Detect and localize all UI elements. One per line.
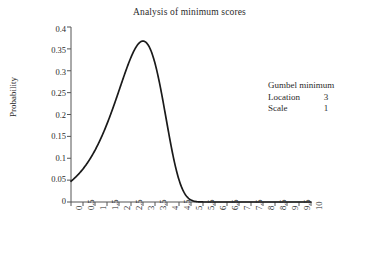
x-tick-label: 0	[74, 206, 84, 210]
x-tick-label: 2.5	[134, 199, 144, 210]
x-tick-label: 1.5	[110, 199, 120, 210]
x-tick-label: 4.5	[182, 199, 192, 210]
legend-title: Gumbel minimum	[268, 80, 344, 92]
legend-key-location: Location	[268, 92, 316, 104]
x-tick-label: 8.5	[278, 199, 288, 210]
x-tick-label: 0.5	[86, 199, 96, 210]
x-tick-label: 2	[122, 206, 132, 210]
x-tick-label: 9.5	[302, 199, 312, 210]
x-tick-label: 9	[290, 206, 300, 210]
x-tick-label: 7.5	[254, 199, 264, 210]
x-tick-label: 5	[194, 206, 204, 210]
x-tick-label: 8	[266, 206, 276, 210]
legend-key-scale: Scale	[268, 103, 316, 115]
x-tick-label: 7	[242, 206, 252, 210]
x-tick-label: 3.5	[158, 199, 168, 210]
x-tick-label: 6.5	[230, 199, 240, 210]
x-tick-label: 3	[146, 206, 156, 210]
legend-row-location: Location 3	[268, 92, 344, 104]
x-tick-label: 6	[218, 206, 228, 210]
x-tick-label: 5.5	[206, 199, 216, 210]
chart-figure: Analysis of minimum scores Probability 0…	[0, 0, 379, 261]
x-axis-tick-labels: 00.511.522.533.544.555.566.577.588.599.5…	[0, 0, 379, 261]
legend-box: Gumbel minimum Location 3 Scale 1	[268, 80, 344, 115]
legend-row-scale: Scale 1	[268, 103, 344, 115]
legend-value-location: 3	[316, 92, 336, 104]
x-tick-label: 10	[314, 202, 324, 211]
legend-value-scale: 1	[316, 103, 336, 115]
x-tick-label: 4	[170, 206, 180, 210]
x-tick-label: 1	[98, 206, 108, 210]
